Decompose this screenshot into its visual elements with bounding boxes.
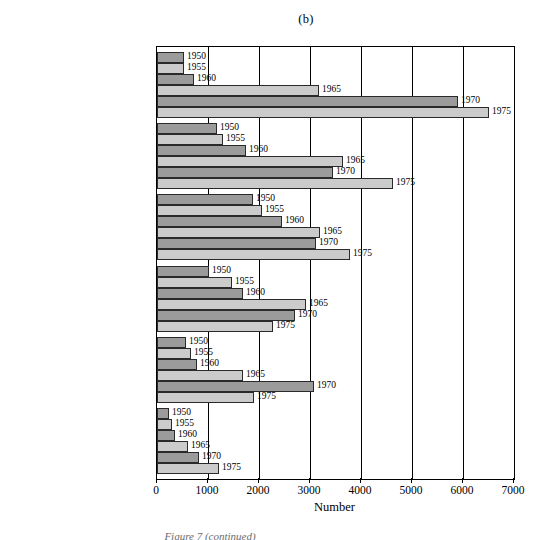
bar[interactable] [157, 359, 197, 370]
bar-value-label: 1965 [188, 440, 210, 451]
bar-row: 1950 [157, 123, 514, 134]
bar[interactable] [157, 178, 393, 189]
bar[interactable] [157, 74, 194, 85]
bar-value-label: 1950 [209, 265, 231, 276]
bar-group: 195019551960196519701975 [157, 266, 514, 332]
bar-group: 195019551960196519701975 [157, 337, 514, 403]
bar-row: 1975 [157, 107, 514, 118]
x-tick-5000 [411, 478, 412, 483]
bar-row: 1970 [157, 381, 514, 392]
x-axis-title: Number [156, 500, 513, 515]
plot-area: 1950195519601965197019751950195519601965… [156, 46, 515, 480]
bar[interactable] [157, 381, 314, 392]
bar[interactable] [157, 123, 217, 134]
bar[interactable] [157, 288, 243, 299]
bar-value-label: 1965 [306, 298, 328, 309]
bar-row: 1975 [157, 321, 514, 332]
bar-value-label: 1960 [282, 215, 304, 226]
bar-group: 195019551960196519701975 [157, 52, 514, 118]
bar[interactable] [157, 52, 184, 63]
bar-value-label: 1950 [169, 407, 191, 418]
bar-value-label: 1950 [184, 51, 206, 62]
bar[interactable] [157, 63, 184, 74]
x-tick-label-7000: 7000 [483, 484, 543, 496]
bar-value-label: 1970 [199, 451, 221, 462]
figure-panel-b: (b) 195019551960196519701975195019551960… [0, 0, 546, 540]
bar[interactable] [157, 321, 273, 332]
bar[interactable] [157, 266, 209, 277]
bar-value-label: 1950 [186, 336, 208, 347]
bar-value-label: 1975 [273, 320, 295, 331]
bar[interactable] [157, 134, 223, 145]
bar-value-label: 1975 [393, 177, 415, 188]
bar-row: 1950 [157, 194, 514, 205]
bar[interactable] [157, 85, 319, 96]
bar[interactable] [157, 194, 253, 205]
bar-row: 1950 [157, 52, 514, 63]
x-tick-4000 [360, 478, 361, 483]
bar-row: 1950 [157, 408, 514, 419]
bar[interactable] [157, 370, 243, 381]
bar[interactable] [157, 249, 350, 260]
bar-group: 195019551960196519701975 [157, 408, 514, 474]
x-tick-2000 [258, 478, 259, 483]
bar[interactable] [157, 419, 172, 430]
bar-value-label: 1950 [253, 193, 275, 204]
bar[interactable] [157, 145, 246, 156]
bar-row: 1960 [157, 288, 514, 299]
bar[interactable] [157, 156, 343, 167]
x-tick-1000 [207, 478, 208, 483]
bar[interactable] [157, 277, 232, 288]
bar[interactable] [157, 299, 306, 310]
bar-row: 1955 [157, 205, 514, 216]
bar-value-label: 1960 [175, 429, 197, 440]
bar[interactable] [157, 205, 262, 216]
bar[interactable] [157, 337, 186, 348]
bar-row: 1955 [157, 134, 514, 145]
bar-row: 1955 [157, 419, 514, 430]
bar-value-label: 1970 [314, 380, 336, 391]
panel-title: (b) [0, 12, 546, 27]
bar-value-label: 1955 [184, 62, 206, 73]
bar-value-label: 1970 [316, 237, 338, 248]
bar-value-label: 1955 [232, 276, 254, 287]
bar[interactable] [157, 430, 175, 441]
bar[interactable] [157, 96, 458, 107]
bar-value-label: 1955 [262, 204, 284, 215]
bar[interactable] [157, 441, 188, 452]
bar-row: 1950 [157, 266, 514, 277]
bar[interactable] [157, 238, 316, 249]
bar[interactable] [157, 392, 254, 403]
bar-value-label: 1950 [217, 122, 239, 133]
bar[interactable] [157, 348, 191, 359]
bar[interactable] [157, 408, 169, 419]
bar-row: 1970 [157, 238, 514, 249]
bar-value-label: 1965 [319, 84, 341, 95]
bar[interactable] [157, 216, 282, 227]
bar-value-label: 1975 [489, 106, 511, 117]
bar-row: 1970 [157, 167, 514, 178]
bar[interactable] [157, 227, 320, 238]
bar-row: 1960 [157, 359, 514, 370]
bar-row: 1970 [157, 96, 514, 107]
bar-row: 1955 [157, 277, 514, 288]
bar-value-label: 1970 [295, 309, 317, 320]
bar-value-label: 1960 [197, 358, 219, 369]
bar[interactable] [157, 452, 199, 463]
bar-value-label: 1975 [254, 391, 276, 402]
bar-value-label: 1965 [320, 226, 342, 237]
bar-group: 195019551960196519701975 [157, 194, 514, 260]
bar-value-label: 1960 [246, 144, 268, 155]
bar[interactable] [157, 107, 489, 118]
x-tick-3000 [309, 478, 310, 483]
bar[interactable] [157, 463, 219, 474]
bar-value-label: 1955 [223, 133, 245, 144]
bar-value-label: 1960 [194, 73, 216, 84]
x-tick-0 [156, 478, 157, 483]
bar-row: 1970 [157, 452, 514, 463]
bar[interactable] [157, 167, 333, 178]
x-tick-6000 [462, 478, 463, 483]
bar-row: 1960 [157, 145, 514, 156]
bar-value-label: 1955 [191, 347, 213, 358]
bar-value-label: 1975 [219, 462, 241, 473]
